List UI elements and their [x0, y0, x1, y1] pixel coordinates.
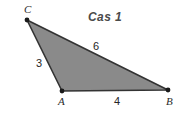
vertex-dot-c [25, 18, 30, 23]
vertex-label-c: C [24, 4, 31, 15]
vertex-dot-a [60, 89, 65, 94]
triangle-figure: Cas 1 C A B 3 6 4 [0, 0, 187, 123]
vertex-label-b: B [166, 96, 173, 107]
side-label-cb: 6 [93, 41, 99, 52]
vertex-dot-b [166, 88, 171, 93]
side-label-ab: 4 [114, 96, 120, 107]
figure-title: Cas 1 [88, 11, 122, 23]
side-label-ca: 3 [36, 58, 42, 69]
vertex-label-a: A [58, 96, 65, 107]
triangle-shape [27, 20, 168, 91]
